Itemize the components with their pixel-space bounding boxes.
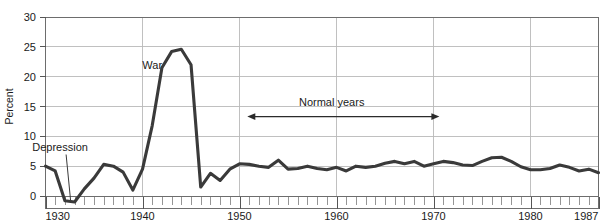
y-tick-label-20: 20 (24, 71, 36, 83)
annotation-war-label: War (142, 59, 162, 71)
arrow-left-icon (247, 113, 255, 120)
y-tick-label-25: 25 (24, 41, 36, 53)
annotation-depression: Depression (32, 141, 88, 202)
x-tick-label-1987: 1987 (574, 210, 598, 222)
x-axis-tick-labels: 1930 1940 1950 1960 1970 1980 1987 (46, 210, 599, 222)
annotation-war: War (142, 59, 162, 71)
y-axis-tick-labels: 30 25 20 15 10 5 0 (24, 11, 36, 202)
y-tick-label-5: 5 (30, 160, 36, 172)
y-tick-label-15: 15 (24, 101, 36, 113)
annotation-normal-years: Normal years (247, 96, 439, 120)
x-tick-label-1980: 1980 (518, 210, 542, 222)
x-tick-label-1930: 1930 (46, 210, 70, 222)
y-axis-title: Percent (3, 88, 15, 124)
x-tick-label-1960: 1960 (324, 210, 348, 222)
data-series-line (46, 49, 599, 202)
arrow-right-icon (431, 113, 439, 120)
annotation-normal-years-label: Normal years (299, 96, 365, 108)
annotation-depression-leader-line (66, 155, 71, 202)
x-tick-label-1950: 1950 (227, 210, 251, 222)
annotation-depression-label: Depression (32, 141, 88, 153)
y-tick-label-0: 0 (30, 190, 36, 202)
chart-container: 30 25 20 15 10 5 0 Percent 1930 1940 195… (0, 0, 614, 224)
line-chart: 30 25 20 15 10 5 0 Percent 1930 1940 195… (0, 0, 614, 224)
y-tick-label-30: 30 (24, 11, 36, 23)
x-tick-label-1970: 1970 (421, 210, 445, 222)
y-axis-tick-marks (40, 17, 46, 196)
x-axis-minor-ticks (47, 197, 600, 209)
x-tick-label-1940: 1940 (130, 210, 154, 222)
